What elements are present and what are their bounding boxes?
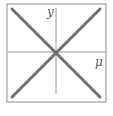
- phase-diagram: y μ: [0, 0, 113, 116]
- mu-axis-label: μ: [95, 55, 103, 69]
- y-axis-label: y: [46, 5, 54, 19]
